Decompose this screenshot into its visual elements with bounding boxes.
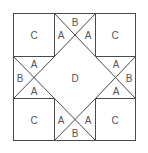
label-right-right: B xyxy=(126,73,133,84)
label-corner-bottom-right: C xyxy=(111,115,118,126)
label-top-left: A xyxy=(58,30,65,41)
label-left-left: B xyxy=(17,73,24,84)
label-right-bottom: A xyxy=(113,86,120,97)
label-bottom-left: A xyxy=(58,115,65,126)
label-bottom-right: A xyxy=(85,115,92,126)
label-corner-bottom-left: C xyxy=(30,115,37,126)
label-corner-top-right: C xyxy=(111,30,118,41)
label-bottom-bottom: B xyxy=(72,128,79,139)
label-top-top: B xyxy=(72,17,79,28)
label-corner-top-left: C xyxy=(30,30,37,41)
label-left-bottom: A xyxy=(31,86,38,97)
quilt-block-diagram: C C C C D A B A A B A A B A A B A xyxy=(0,0,148,153)
label-right-top: A xyxy=(113,59,120,70)
label-center: D xyxy=(71,73,78,84)
label-left-top: A xyxy=(31,59,38,70)
label-top-right: A xyxy=(85,30,92,41)
